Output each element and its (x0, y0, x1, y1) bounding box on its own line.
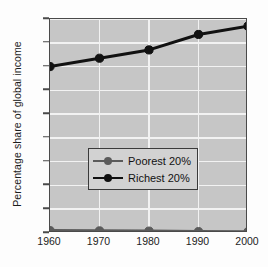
data-point-marker (244, 22, 247, 30)
x-tick-label: 1970 (77, 235, 121, 247)
legend-label-poorest: Poorest 20% (128, 155, 191, 167)
data-point-marker (145, 46, 153, 54)
y-axis-title: Percentage share of global income (11, 19, 23, 229)
data-point-marker (50, 227, 54, 232)
x-tick-label: 1980 (126, 235, 170, 247)
x-tick-label: 1960 (27, 235, 71, 247)
x-tick-label: 1990 (176, 235, 220, 247)
legend-line-marker-icon (93, 155, 123, 167)
legend-label-richest: Richest 20% (128, 172, 190, 184)
data-point-marker (194, 30, 202, 38)
legend-item-richest[interactable]: Richest 20% (93, 169, 191, 186)
data-point-marker (95, 227, 103, 232)
data-point-marker (244, 228, 247, 232)
chart-figure: Percentage share of global income 010203… (0, 0, 268, 267)
legend-item-poorest[interactable]: Poorest 20% (93, 152, 191, 169)
legend-line-marker-icon (93, 172, 123, 184)
x-tick-label: 2000 (225, 235, 268, 247)
data-point-marker (50, 62, 54, 70)
data-point-marker (145, 227, 153, 232)
data-series-layer (50, 19, 247, 232)
plot-area (49, 18, 247, 232)
chart-legend: Poorest 20% Richest 20% (88, 148, 198, 190)
data-point-marker (194, 227, 202, 232)
data-point-marker (95, 54, 103, 62)
